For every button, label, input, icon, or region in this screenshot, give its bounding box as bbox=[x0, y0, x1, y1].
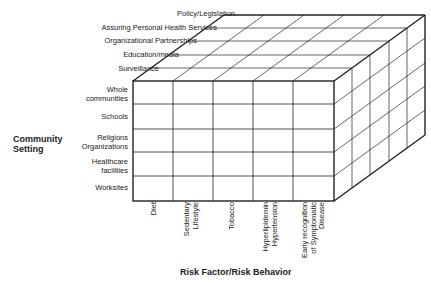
risk-label-tobacco: Tobacco bbox=[228, 202, 237, 248]
right-face-grid bbox=[334, 28, 425, 188]
depth-label-policy: Policy/Legislation bbox=[177, 10, 235, 19]
community-setting-title: Community Setting bbox=[13, 134, 63, 154]
setting-label-religions: Religions Organizations bbox=[82, 134, 128, 151]
cube-grid bbox=[0, 0, 431, 283]
setting-label-healthcare: Healthcare facilities bbox=[92, 158, 128, 175]
risk-factor-title: Risk Factor/Risk Behavior bbox=[180, 267, 292, 277]
depth-label-education: Education/media bbox=[123, 51, 179, 60]
front-face-grid bbox=[133, 81, 334, 201]
depth-label-surveillance: Surveillance bbox=[118, 65, 159, 74]
setting-label-whole-communities: Whole communities bbox=[86, 86, 128, 103]
risk-label-early-recognition: Early recognition of Symptomatic Disease bbox=[301, 202, 327, 262]
risk-label-diet: Diet bbox=[150, 202, 159, 248]
risk-label-hyperlipidemin: Hyperlipidemin Hypertension bbox=[262, 202, 279, 258]
risk-label-sedentary: Sedentary Lifestyle bbox=[183, 202, 200, 248]
depth-label-partnerships: Organizational Partnerships bbox=[104, 37, 197, 46]
setting-label-schools: Schools bbox=[101, 113, 128, 122]
depth-label-personal-health: Assuring Personal Health Services bbox=[102, 24, 217, 33]
setting-label-worksites: Worksites bbox=[95, 184, 128, 193]
